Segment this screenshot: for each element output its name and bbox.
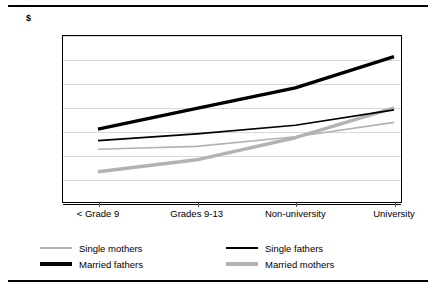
- x-tick-mark: [198, 203, 199, 207]
- x-category-label: University: [373, 208, 415, 219]
- legend-label: Married fathers: [79, 259, 143, 270]
- gridline-0: [63, 204, 401, 205]
- legend-item[interactable]: Married mothers: [226, 256, 412, 272]
- series-lines: [62, 35, 402, 203]
- legend-label: Married mothers: [265, 259, 334, 270]
- x-tick-mark: [99, 203, 100, 207]
- x-category-label: Non-university: [265, 208, 326, 219]
- x-category-label: Grades 9-13: [170, 208, 223, 219]
- x-axis-tick-labels: < Grade 9Grades 9-13Non-universityUniver…: [62, 208, 402, 224]
- legend-item[interactable]: Married fathers: [40, 256, 226, 272]
- chart-page: $ 35,00030,00025,00020,00015,00010,0005,…: [0, 0, 436, 292]
- legend-item[interactable]: Single mothers: [40, 240, 226, 256]
- legend-label: Single fathers: [265, 243, 323, 254]
- top-divider-rule: [8, 5, 428, 7]
- legend-item[interactable]: Single fathers: [226, 240, 412, 256]
- legend-label: Single mothers: [79, 243, 142, 254]
- x-tick-mark: [395, 203, 396, 207]
- y-axis-unit-label: $: [26, 13, 31, 23]
- legend-line-swatch: [226, 262, 258, 265]
- series-line: [98, 57, 394, 129]
- chart-legend: Single mothersSingle fathersMarried fath…: [40, 240, 412, 272]
- chart-plot-area: [62, 35, 402, 203]
- series-line: [98, 110, 394, 141]
- series-line: [98, 122, 394, 149]
- legend-line-swatch: [40, 262, 72, 265]
- legend-line-swatch: [226, 247, 258, 249]
- legend-line-swatch: [40, 247, 72, 249]
- bottom-divider-rule: [8, 280, 428, 282]
- x-category-label: < Grade 9: [77, 208, 120, 219]
- x-tick-mark: [296, 203, 297, 207]
